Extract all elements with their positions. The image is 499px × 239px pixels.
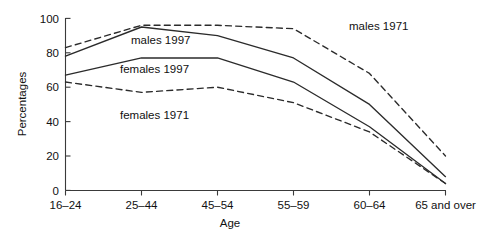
y-tick-label-100: 100 <box>40 13 59 25</box>
line-chart: 100 80 60 40 20 0 16–24 25–44 45–54 55–5… <box>0 0 499 239</box>
y-tick-label-40: 40 <box>46 116 59 128</box>
y-tick-label-0: 0 <box>53 185 59 197</box>
chart-container: 100 80 60 40 20 0 16–24 25–44 45–54 55–5… <box>0 0 499 239</box>
y-tick-label-60: 60 <box>46 81 59 93</box>
series-label-females-1971: females 1971 <box>120 109 189 121</box>
series-label-females-1997: females 1997 <box>120 63 189 75</box>
x-tick-marks <box>66 191 446 196</box>
x-tick-label-60-64: 60–64 <box>354 199 387 211</box>
x-tick-label-55-59: 55–59 <box>278 199 310 211</box>
series-line-males-1997 <box>66 27 446 177</box>
x-axis-title: Age <box>220 217 240 229</box>
y-tick-label-20: 20 <box>46 150 59 162</box>
x-tick-label-45-54: 45–54 <box>202 199 235 211</box>
x-tick-label-65-and-over: 65 and over <box>415 199 476 211</box>
y-tick-marks <box>66 18 71 190</box>
series-line-females-1971 <box>66 82 446 183</box>
series-label-males-1971: males 1971 <box>349 20 408 32</box>
series-line-males-1971 <box>66 25 446 156</box>
x-tick-label-25-44: 25–44 <box>126 199 159 211</box>
x-tick-label-16-24: 16–24 <box>50 199 83 211</box>
y-tick-label-80: 80 <box>46 47 59 59</box>
series-label-males-1997: males 1997 <box>131 34 190 46</box>
y-axis-title: Percentages <box>16 71 28 136</box>
